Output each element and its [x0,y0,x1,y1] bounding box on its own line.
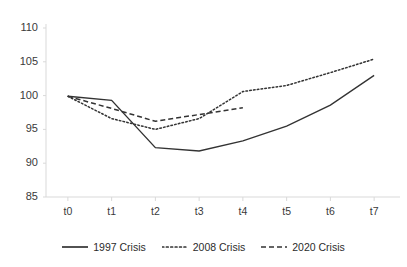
y-tick-label: 100 [4,89,38,101]
legend-swatch-solid [62,242,88,252]
y-tick-label: 95 [4,122,38,134]
series-line-2020-crisis [68,96,243,121]
line-chart: 859095100105110 t0t1t2t3t4t5t6t7 1997 Cr… [0,0,407,267]
y-tick-label: 85 [4,190,38,202]
x-tick-label: t7 [362,205,386,217]
x-tick-label: t0 [56,205,80,217]
y-tick-label: 105 [4,55,38,67]
y-tick-label: 110 [4,21,38,33]
legend-label: 2008 Crisis [193,241,246,253]
x-tick-label: t5 [275,205,299,217]
legend-swatch-dashed [261,242,287,252]
legend-label: 1997 Crisis [93,241,146,253]
chart-legend: 1997 Crisis2008 Crisis2020 Crisis [0,241,407,253]
plot-area [0,0,407,267]
legend-entry: 2020 Crisis [261,241,345,253]
x-tick-label: t4 [231,205,255,217]
legend-entry: 2008 Crisis [162,241,246,253]
x-tick-label: t1 [100,205,124,217]
x-tick-label: t3 [187,205,211,217]
legend-swatch-dotted [162,242,188,252]
legend-entry: 1997 Crisis [62,241,146,253]
series-line-2008-crisis [68,59,374,129]
x-tick-label: t2 [143,205,167,217]
x-tick-label: t6 [318,205,342,217]
legend-label: 2020 Crisis [292,241,345,253]
series-line-1997-crisis [68,75,374,151]
y-tick-label: 90 [4,156,38,168]
